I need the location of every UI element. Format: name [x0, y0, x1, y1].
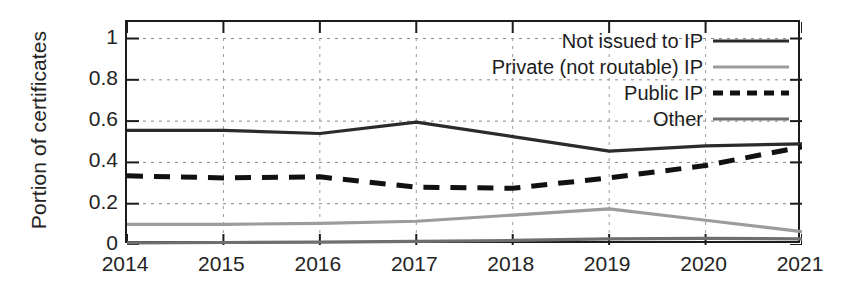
x-tick-label: 2021	[777, 252, 824, 276]
x-tick-label: 2016	[294, 252, 341, 276]
series-line-2	[127, 147, 802, 188]
y-axis-title: Portion of certificates	[27, 5, 51, 255]
legend-label: Public IP	[624, 83, 703, 103]
legend-item: Private (not routable) IP	[492, 54, 790, 79]
legend-line-sample	[712, 112, 790, 126]
plot-area: Not issued to IPPrivate (not routable) I…	[125, 20, 800, 243]
x-tick-label: 2014	[102, 252, 149, 276]
x-tick-label: 2019	[584, 252, 631, 276]
legend-line-sample	[712, 34, 790, 48]
legend-line-sample	[712, 86, 790, 100]
x-axis-tick-labels: 20142015201620172018201920202021	[0, 252, 854, 286]
series-line-3	[127, 238, 802, 243]
legend-line-sample	[712, 60, 790, 74]
x-tick-label: 2020	[680, 252, 727, 276]
series-line-1	[127, 209, 802, 232]
legend-label: Other	[653, 109, 703, 129]
x-tick-label: 2017	[391, 252, 438, 276]
x-tick-label: 2018	[487, 252, 534, 276]
chart-legend: Not issued to IPPrivate (not routable) I…	[492, 28, 790, 131]
y-tick-label: 0.8	[60, 66, 118, 90]
legend-label: Private (not routable) IP	[492, 57, 703, 77]
legend-item: Other	[653, 106, 790, 131]
legend-label: Not issued to IP	[562, 31, 703, 51]
y-tick-label: 0.2	[60, 190, 118, 214]
legend-item: Not issued to IP	[562, 28, 790, 53]
y-tick-label: 0.6	[60, 107, 118, 131]
chart-figure: Portion of certificates 10.80.60.40.20 N…	[0, 0, 854, 302]
y-tick-label: 1	[60, 25, 118, 49]
x-tick-label: 2015	[198, 252, 245, 276]
legend-item: Public IP	[624, 80, 790, 105]
y-tick-label: 0.4	[60, 148, 118, 172]
